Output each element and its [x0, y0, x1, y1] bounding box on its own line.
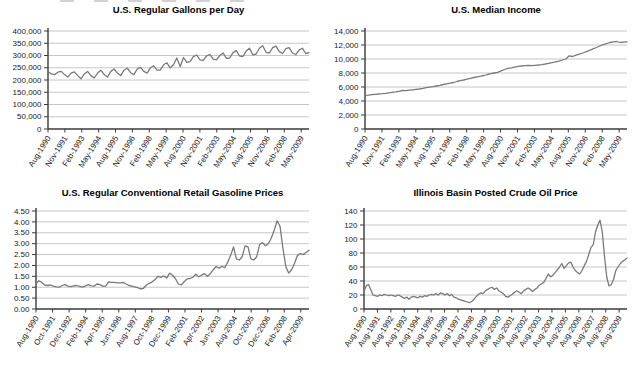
- svg-text:4.50: 4.50: [14, 207, 30, 216]
- svg-text:12,000: 12,000: [334, 41, 359, 50]
- line-chart-canvas: 02,0004,0006,0008,00010,00012,00014,000A…: [317, 0, 634, 183]
- svg-text:60: 60: [349, 263, 358, 272]
- svg-text:100,000: 100,000: [13, 100, 42, 109]
- line-chart-canvas: 020406080100120140Aug-1990Aug-1991Aug-19…: [317, 183, 634, 365]
- svg-text:250,000: 250,000: [13, 63, 42, 72]
- axes: [361, 28, 627, 133]
- svg-text:2.00: 2.00: [14, 261, 30, 270]
- series-line: [364, 220, 627, 303]
- tick-labels: 050,000100,000150,000200,000250,000300,0…: [13, 27, 307, 170]
- tick-labels: 020406080100120140Aug-1990Aug-1991Aug-19…: [343, 207, 624, 349]
- gridlines: [48, 31, 309, 117]
- line-chart-canvas: 050,000100,000150,000200,000250,000300,0…: [0, 0, 317, 183]
- svg-text:4,000: 4,000: [338, 97, 359, 106]
- chart-gasoline-prices: U.S. Regular Conventional Retail Gasolin…: [0, 183, 317, 365]
- svg-text:0: 0: [354, 125, 359, 134]
- svg-text:350,000: 350,000: [13, 39, 42, 48]
- svg-text:80: 80: [349, 249, 358, 258]
- series-line: [48, 46, 309, 79]
- svg-text:150,000: 150,000: [13, 88, 42, 97]
- chart-us-median-income: U.S. Median Income 02,0004,0006,0008,000…: [317, 0, 634, 183]
- svg-text:400,000: 400,000: [13, 27, 42, 36]
- svg-text:40: 40: [349, 277, 358, 286]
- gridlines: [364, 211, 627, 295]
- svg-text:14,000: 14,000: [334, 27, 359, 36]
- svg-text:10,000: 10,000: [334, 55, 359, 64]
- axes: [32, 208, 309, 313]
- chart-crude-oil-price: Illinois Basin Posted Crude Oil Price 02…: [317, 183, 634, 365]
- svg-text:3.00: 3.00: [14, 239, 30, 248]
- tick-labels: 02,0004,0006,0008,00010,00012,00014,000A…: [334, 27, 624, 170]
- svg-text:20: 20: [349, 291, 358, 300]
- line-chart-canvas: 0.000.501.001.502.002.503.003.504.004.50…: [0, 183, 317, 365]
- svg-text:1.00: 1.00: [14, 283, 30, 292]
- svg-text:0: 0: [37, 125, 42, 134]
- svg-text:140: 140: [344, 207, 358, 216]
- svg-text:0.50: 0.50: [14, 294, 30, 303]
- svg-text:100: 100: [344, 235, 358, 244]
- svg-text:300,000: 300,000: [13, 51, 42, 60]
- svg-text:50,000: 50,000: [17, 112, 42, 121]
- svg-text:0.00: 0.00: [14, 305, 30, 314]
- charts-grid: U.S. Regular Gallons per Day 050,000100,…: [0, 0, 634, 365]
- svg-text:0: 0: [353, 305, 358, 314]
- svg-text:4.00: 4.00: [14, 218, 30, 227]
- svg-text:200,000: 200,000: [13, 76, 42, 85]
- svg-text:1.50: 1.50: [14, 272, 30, 281]
- svg-text:120: 120: [344, 221, 358, 230]
- svg-text:3.50: 3.50: [14, 228, 30, 237]
- svg-text:2.50: 2.50: [14, 250, 30, 259]
- svg-text:6,000: 6,000: [338, 83, 359, 92]
- svg-text:2,000: 2,000: [338, 111, 359, 120]
- svg-text:8,000: 8,000: [338, 69, 359, 78]
- chart-us-regular-gallons-per-day: U.S. Regular Gallons per Day 050,000100,…: [0, 0, 317, 183]
